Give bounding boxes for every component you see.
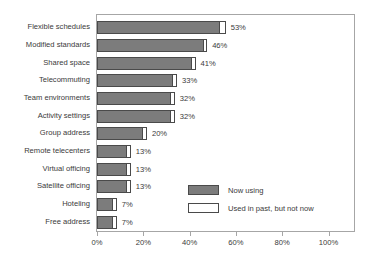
x-tick-label: 0% [92, 238, 103, 247]
bar-segment-now-using [97, 127, 143, 140]
bars-container: 53%46%41%33%32%32%20%13%13%13%7%7% [97, 15, 354, 231]
bar-segment-now-using [97, 110, 171, 123]
bar-value-label: 41% [201, 57, 216, 70]
legend-label: Now using [228, 184, 263, 197]
bar-value-label: 7% [122, 216, 133, 229]
bar-row: 46% [97, 39, 354, 52]
category-label: Activity settings [0, 111, 90, 120]
bar-segment-used-in-past [191, 57, 196, 70]
x-tick-mark [97, 232, 98, 236]
bar-segment-used-in-past [112, 216, 117, 229]
category-label: Team environments [0, 93, 90, 102]
bar-segment-now-using [97, 57, 192, 70]
bar-segment-now-using [97, 74, 173, 87]
bar-value-label: 53% [231, 21, 246, 34]
x-tick-mark [282, 232, 283, 236]
category-label: Free address [0, 217, 90, 226]
bar-value-label: 13% [136, 180, 151, 193]
bar-segment-now-using [97, 21, 220, 34]
category-axis-labels: Flexible schedulesModified standardsShar… [0, 14, 93, 232]
category-label: Modified standards [0, 40, 90, 49]
legend-swatch-now [188, 185, 219, 195]
x-tick-mark [190, 232, 191, 236]
bar-row: 13% [97, 180, 354, 193]
bar-row: 13% [97, 145, 354, 158]
category-label: Group address [0, 128, 90, 137]
bar-row: 32% [97, 92, 354, 105]
bar-row: 32% [97, 110, 354, 123]
category-label: Hoteling [0, 199, 90, 208]
category-label: Virtual officing [0, 164, 90, 173]
x-tick-label: 60% [228, 238, 243, 247]
category-label: Satellite officing [0, 181, 90, 190]
bar-row: 20% [97, 127, 354, 140]
bar-segment-now-using [97, 163, 127, 176]
category-label: Remote telecenters [0, 146, 90, 155]
bar-segment-used-in-past [172, 74, 177, 87]
bar-value-label: 13% [136, 145, 151, 158]
bar-value-label: 32% [180, 110, 195, 123]
bar-segment-used-in-past [126, 163, 131, 176]
bar-value-label: 32% [180, 92, 195, 105]
x-tick-label: 100% [319, 238, 338, 247]
bar-segment-used-in-past [126, 180, 131, 193]
bar-segment-now-using [97, 92, 171, 105]
x-tick-label: 20% [136, 238, 151, 247]
x-tick-mark [143, 232, 144, 236]
plot-area: 53%46%41%33%32%32%20%13%13%13%7%7% [96, 14, 355, 232]
bar-value-label: 20% [152, 127, 167, 140]
bar-segment-used-in-past [170, 92, 175, 105]
category-label: Shared space [0, 58, 90, 67]
bar-segment-used-in-past [142, 127, 147, 140]
bar-segment-now-using [97, 145, 127, 158]
bar-value-label: 33% [182, 74, 197, 87]
x-tick-mark [329, 232, 330, 236]
x-tick-label: 80% [275, 238, 290, 247]
bar-segment-now-using [97, 39, 204, 52]
bar-segment-used-in-past [170, 110, 175, 123]
legend-swatch-past [188, 203, 219, 213]
bar-segment-now-using [97, 198, 113, 211]
bar-segment-used-in-past [203, 39, 208, 52]
bar-segment-used-in-past [219, 21, 226, 34]
bar-row: 33% [97, 74, 354, 87]
bar-segment-now-using [97, 180, 127, 193]
category-label: Telecommuting [0, 75, 90, 84]
bar-value-label: 13% [136, 163, 151, 176]
legend-label: Used in past, but not now [228, 202, 314, 215]
bar-value-label: 7% [122, 198, 133, 211]
bar-chart: Flexible schedulesModified standardsShar… [0, 0, 371, 267]
x-tick-label: 40% [182, 238, 197, 247]
bar-segment-used-in-past [126, 145, 131, 158]
x-axis: 0%20%40%60%80%100% [96, 232, 355, 256]
bar-row: 53% [97, 21, 354, 34]
bar-row: 7% [97, 198, 354, 211]
bar-segment-now-using [97, 216, 113, 229]
bar-row: 7% [97, 216, 354, 229]
bar-segment-used-in-past [112, 198, 117, 211]
x-tick-mark [236, 232, 237, 236]
bar-row: 13% [97, 163, 354, 176]
category-label: Flexible schedules [0, 22, 90, 31]
bar-value-label: 46% [212, 39, 227, 52]
chart-title [0, 0, 371, 4]
bar-row: 41% [97, 57, 354, 70]
